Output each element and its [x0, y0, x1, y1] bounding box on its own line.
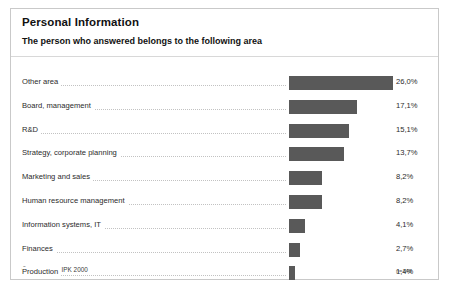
leader-line: [22, 252, 286, 253]
category-label: Strategy, corporate planning: [22, 148, 120, 157]
chart-row: Strategy, corporate planning13,7%: [11, 144, 438, 165]
category-label: Production: [22, 267, 61, 276]
bar: [289, 195, 322, 209]
value-label: 8,2%: [396, 172, 413, 181]
value-label: 8,2%: [396, 196, 413, 205]
leader-line: [22, 85, 286, 86]
chart-row: Marketing and sales8,2%: [11, 168, 438, 189]
bar: [289, 171, 322, 185]
chart-slide: Personal Information The person who answ…: [10, 8, 439, 280]
value-label: 4,1%: [396, 220, 413, 229]
bar: [289, 219, 305, 233]
bar-chart-plot: Other area26,0%Board, management17,1%R&D…: [11, 57, 438, 279]
page-title: Personal Information: [22, 16, 139, 28]
chart-row: Other area26,0%: [11, 73, 438, 94]
value-label: 26,0%: [396, 77, 418, 86]
value-label: 1,4%: [396, 267, 413, 276]
category-label: Other area: [22, 77, 61, 86]
chart-row: Board, management17,1%: [11, 97, 438, 118]
bar: [289, 147, 344, 161]
chart-row: Human resource management8,2%: [11, 192, 438, 213]
chart-subtitle: The person who answered belongs to the f…: [22, 36, 262, 46]
category-label: Human resource management: [22, 196, 128, 205]
leader-line: [22, 133, 286, 134]
bar: [289, 100, 357, 114]
category-label: Board, management: [22, 101, 94, 110]
chart-row: Finances2,7%: [11, 240, 438, 261]
bar: [289, 76, 393, 90]
value-label: 13,7%: [396, 148, 418, 157]
chart-row: Information systems, IT4,1%: [11, 216, 438, 237]
category-label: Information systems, IT: [22, 220, 104, 229]
category-label: R&D: [22, 125, 41, 134]
value-label: 17,1%: [396, 101, 418, 110]
category-label: Finances: [22, 244, 56, 253]
chart-row: R&D15,1%: [11, 121, 438, 142]
bar: [289, 124, 349, 138]
value-label: 2,7%: [396, 244, 413, 253]
value-label: 15,1%: [396, 125, 418, 134]
leader-line: [22, 275, 286, 276]
bar: [289, 243, 300, 257]
category-label: Marketing and sales: [22, 172, 93, 181]
bar: [289, 266, 295, 280]
